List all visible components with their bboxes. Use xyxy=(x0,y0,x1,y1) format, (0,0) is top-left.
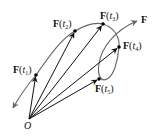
label-F-t3: F(t3) xyxy=(100,11,119,22)
label-F-t4: F(t4) xyxy=(123,41,142,52)
position-vectors xyxy=(29,26,117,119)
vector-t3 xyxy=(29,26,102,119)
label-F-t1: F(t1) xyxy=(13,65,32,76)
label-curve-F: F xyxy=(141,15,147,25)
vector-function-diagram: F(t1) F(t2) F(t3) F(t4) F(t5) F O xyxy=(0,0,158,140)
label-F-t5: F(t5) xyxy=(95,84,114,95)
point-t3 xyxy=(101,22,105,26)
point-t5 xyxy=(97,77,101,81)
label-F-t2: F(t2) xyxy=(53,19,72,30)
point-t2 xyxy=(73,29,77,33)
curve-points xyxy=(34,22,121,81)
point-t4 xyxy=(117,45,121,49)
label-origin: O xyxy=(24,121,31,131)
point-t1 xyxy=(34,73,38,77)
